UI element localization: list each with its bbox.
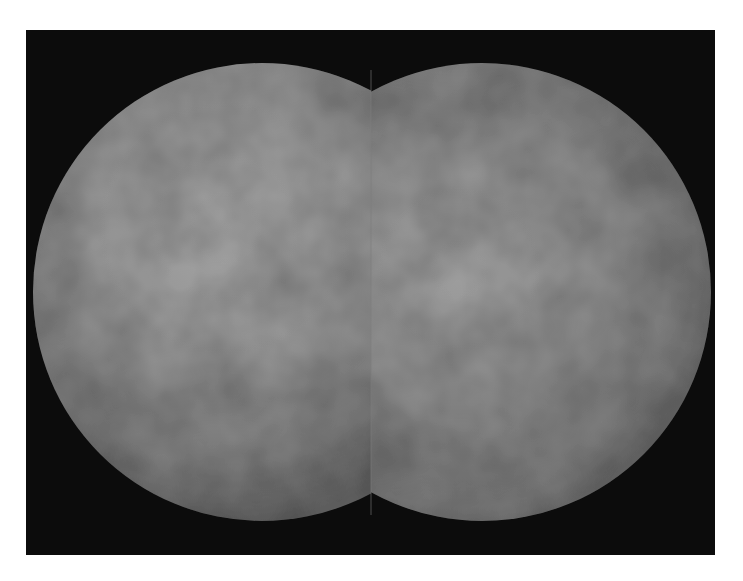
hemisphere-figure <box>26 30 715 555</box>
image-frame <box>26 30 715 555</box>
